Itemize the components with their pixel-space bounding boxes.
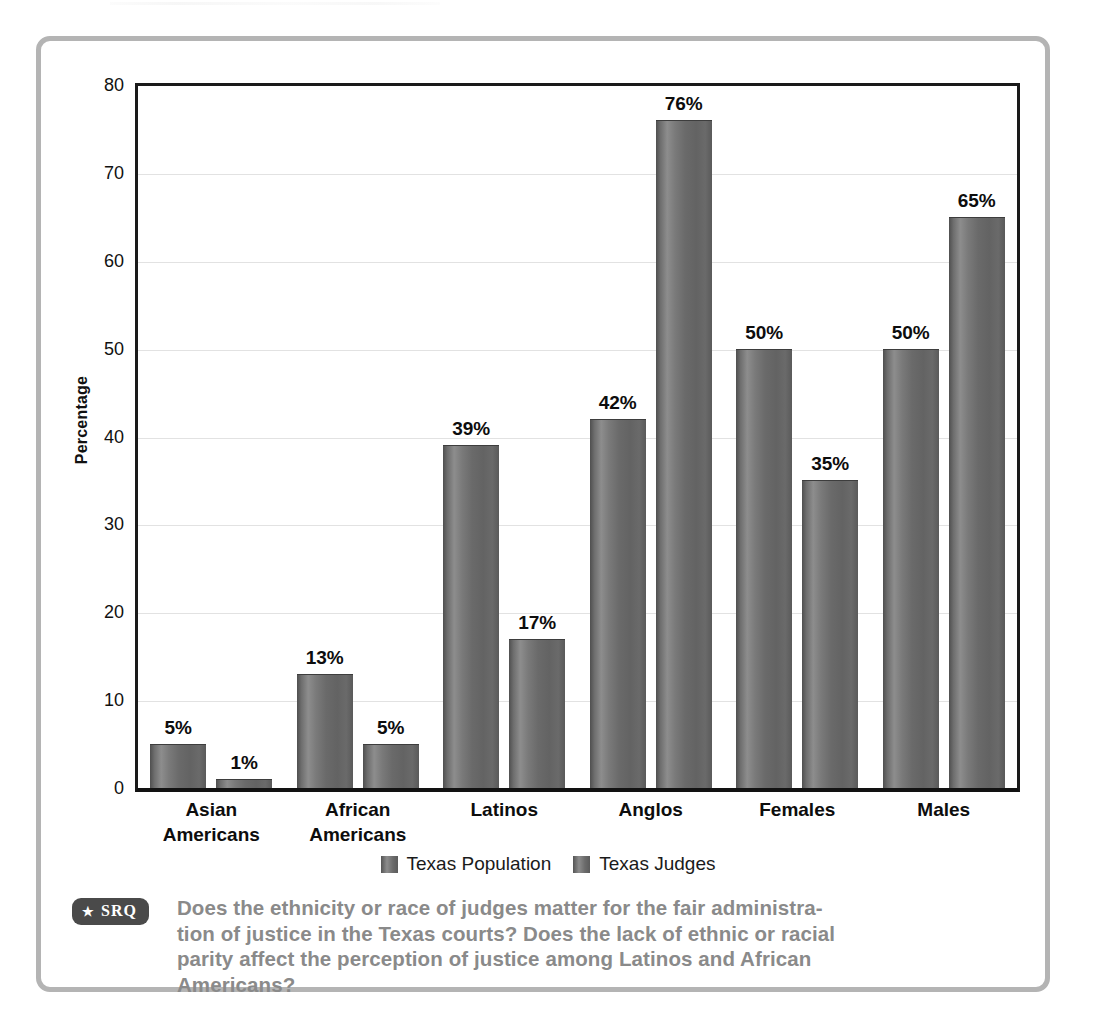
- bar-fill: [150, 744, 206, 788]
- bar-fill: [949, 217, 1005, 788]
- bar-texas-judges: 76%: [656, 120, 712, 788]
- bar-value-label: 65%: [958, 190, 996, 212]
- bar-fill: [736, 349, 792, 788]
- bar-texas-judges: 35%: [802, 480, 858, 788]
- legend-item-1: Texas Population: [381, 853, 552, 875]
- gridline: [138, 262, 1017, 263]
- bar-value-label: 76%: [665, 93, 703, 115]
- legend-label: Texas Population: [407, 853, 552, 875]
- bar-fill: [443, 445, 499, 788]
- y-axis-title: Percentage: [73, 340, 91, 500]
- category-label-line: Anglos: [578, 797, 725, 822]
- x-axis-category-label: Females: [724, 797, 871, 822]
- bar-texas-judges: 65%: [949, 217, 1005, 788]
- y-axis-tick-label: 50: [68, 339, 124, 360]
- category-label-line: Males: [871, 797, 1018, 822]
- bar-texas-judges: 5%: [363, 744, 419, 788]
- bar-texas-population: 42%: [590, 419, 646, 788]
- bar-fill: [590, 419, 646, 788]
- category-label-line: Females: [724, 797, 871, 822]
- x-axis-category-label: Anglos: [578, 797, 725, 822]
- y-axis-tick-label: 30: [68, 514, 124, 535]
- x-axis-category-label: AfricanAmericans: [285, 797, 432, 847]
- category-label-line: Latinos: [431, 797, 578, 822]
- y-axis-tick-label: 20: [68, 602, 124, 623]
- bar-value-label: 39%: [452, 418, 490, 440]
- figure-frame: Percentage 80706050403020100 5%1%13%5%39…: [36, 36, 1050, 992]
- bar-fill: [883, 349, 939, 788]
- star-icon: ★: [82, 905, 95, 918]
- bar-value-label: 42%: [599, 392, 637, 414]
- category-label-line: African: [285, 797, 432, 822]
- bar-value-label: 13%: [306, 647, 344, 669]
- bar-fill: [297, 674, 353, 788]
- category-label-line: Americans: [285, 822, 432, 847]
- category-label-line: Asian: [138, 797, 285, 822]
- chart-legend: Texas PopulationTexas Judges: [41, 853, 1055, 875]
- bar-texas-population: 50%: [736, 349, 792, 788]
- srq-question-line: Does the ethnicity or race of judges mat…: [177, 895, 835, 921]
- y-axis-tick-label: 80: [68, 75, 124, 96]
- x-axis-category-label: Latinos: [431, 797, 578, 822]
- category-label-line: Americans: [138, 822, 285, 847]
- bar-swatch-icon: [381, 856, 398, 873]
- bar-texas-judges: 1%: [216, 779, 272, 788]
- srq-question-line: tion of justice in the Texas courts? Doe…: [177, 921, 835, 947]
- gridline: [138, 174, 1017, 175]
- y-axis-tick-label: 10: [68, 690, 124, 711]
- srq-callout: ★ SRQ Does the ethnicity or race of judg…: [72, 895, 1015, 997]
- bar-value-label: 17%: [518, 612, 556, 634]
- plot-area: 80706050403020100 5%1%13%5%39%17%42%76%5…: [135, 83, 1020, 792]
- bar-texas-judges: 17%: [509, 639, 565, 788]
- bar-value-label: 1%: [231, 752, 258, 774]
- bar-value-label: 50%: [892, 322, 930, 344]
- bar-swatch-icon: [573, 856, 590, 873]
- bar-fill: [509, 639, 565, 788]
- bar-texas-population: 13%: [297, 674, 353, 788]
- x-axis-category-label: AsianAmericans: [138, 797, 285, 847]
- bar-value-label: 50%: [745, 322, 783, 344]
- y-axis-tick-label: 70: [68, 163, 124, 184]
- bar-fill: [363, 744, 419, 788]
- legend-label: Texas Judges: [599, 853, 715, 875]
- bar-chart: Percentage 80706050403020100 5%1%13%5%39…: [41, 41, 1055, 997]
- bar-value-label: 5%: [377, 717, 404, 739]
- scan-artifact-line: [110, 2, 440, 5]
- bar-texas-population: 50%: [883, 349, 939, 788]
- y-axis-tick-label: 0: [68, 778, 124, 799]
- bar-texas-population: 39%: [443, 445, 499, 788]
- y-axis-tick-label: 60: [68, 251, 124, 272]
- srq-badge-label: SRQ: [101, 902, 137, 920]
- bar-value-label: 5%: [165, 717, 192, 739]
- bar-fill: [656, 120, 712, 788]
- bar-fill: [216, 779, 272, 788]
- x-axis-category-label: Males: [871, 797, 1018, 822]
- bar-value-label: 35%: [811, 453, 849, 475]
- srq-question-text: Does the ethnicity or race of judges mat…: [177, 895, 835, 997]
- srq-badge: ★ SRQ: [72, 898, 149, 925]
- srq-question-line: Americans?: [177, 972, 835, 998]
- srq-question-line: parity affect the perception of justice …: [177, 946, 835, 972]
- bar-texas-population: 5%: [150, 744, 206, 788]
- bar-fill: [802, 480, 858, 788]
- y-axis-tick-label: 40: [68, 427, 124, 448]
- legend-item-2: Texas Judges: [573, 853, 715, 875]
